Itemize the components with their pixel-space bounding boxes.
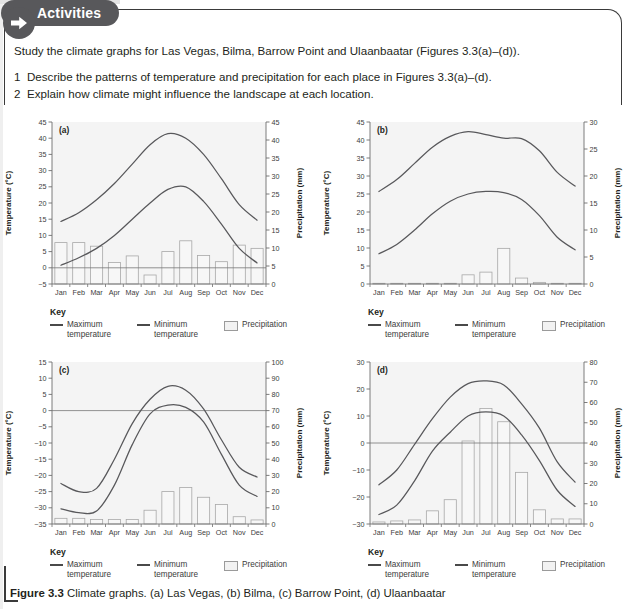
x-tick-label: Feb [73,288,85,297]
x-tick-label: May [443,288,457,297]
y-tick-label-right: 20 [272,208,280,217]
key-label-minimum: Minimum temperature [154,320,214,339]
y-tick-label-left: 10 [357,412,365,421]
y-tick-label-right: 30 [272,172,280,181]
key-item-precipitation: Precipitation [224,320,287,331]
key-label-maximum: Maximum temperature [67,320,127,339]
precipitation-bar [462,441,474,524]
key-chart-a: Key Maximum temperature Minimum temperat… [50,307,297,339]
key-item-maximum-temperature: Maximum temperature [50,320,127,339]
y-tick-label-right: 35 [272,154,280,163]
x-tick-label: Aug [179,288,192,297]
panel-label: (d) [377,365,388,375]
precipitation-bar [516,472,528,524]
precipitation-bar [498,422,510,524]
line-swatch-icon [455,324,468,326]
y-tick-label-right: 70 [590,378,598,387]
key-item-precipitation: Precipitation [224,560,287,571]
line-swatch-icon [137,564,150,566]
x-tick-label: Feb [391,288,403,297]
y-tick-label-right: 25 [590,145,598,154]
x-tick-label: Jan [55,288,67,297]
x-tick-label: Aug [497,288,510,297]
y-tick-label-left: 0 [361,280,365,289]
y-tick-label-right: 15 [272,226,280,235]
y-tick-label-left: 15 [357,226,365,235]
key-label-precipitation: Precipitation [242,560,287,570]
chart-canvas: −5051015202530354045051015202530354045Ja… [0,112,310,308]
arrow-right-icon [3,7,35,39]
y-tick-label-right: 40 [272,136,280,145]
y-tick-label-right: 100 [272,358,284,367]
precipitation-bar [91,246,103,284]
y-tick-label-right: 10 [590,499,598,508]
y-tick-label-left: 15 [39,358,47,367]
x-tick-label: Jun [144,528,156,537]
climate-chart-b: 051015202530354045051015202530JanFebMarA… [318,112,628,308]
y-tick-label-right: 30 [590,118,598,127]
y-tick-label-left: −15 [34,455,46,464]
precipitation-bar [91,519,103,524]
key-item-minimum-temperature: Minimum temperature [455,320,532,339]
y-tick-label-left: 30 [39,166,47,175]
precipitation-bar [251,248,263,284]
precipitation-bar [516,278,528,284]
x-tick-label: Jan [373,528,385,537]
y-tick-label-left: 0 [43,263,47,272]
y-tick-label-left: 30 [357,172,365,181]
y-tick-label-left: −5 [38,422,46,431]
key-chart-b: Key Maximum temperature Minimum temperat… [368,307,615,339]
y-tick-label-left: −20 [352,493,364,502]
bar-swatch-icon [224,561,238,571]
y-axis-title-right: Precipitation (mm) [613,168,622,239]
y-tick-label-left: 0 [361,439,365,448]
key-chart-c: Key Maximum temperature Minimum temperat… [50,547,297,579]
x-tick-label: Jun [144,288,156,297]
x-tick-label: Dec [569,528,582,537]
y-tick-label-left: 10 [39,231,47,240]
line-swatch-icon [137,324,150,326]
panel-label: (b) [377,125,388,135]
chart-canvas: 051015202530354045051015202530JanFebMarA… [318,112,628,308]
x-tick-label: Dec [251,528,264,537]
x-tick-label: Feb [73,528,85,537]
line-swatch-icon [455,564,468,566]
y-tick-label-right: 0 [272,280,276,289]
y-tick-label-left: −30 [352,520,364,529]
key-item-minimum-temperature: Minimum temperature [137,560,214,579]
x-tick-label: Jul [481,528,491,537]
precipitation-bar [444,500,456,524]
y-tick-label-left: 0 [43,406,47,415]
question-2-number: 2 [14,87,20,100]
y-tick-label-left: 40 [357,136,365,145]
key-item-maximum-temperature: Maximum temperature [368,320,445,339]
climate-chart-d: −30−20−10010203001020304050607080JanFebM… [318,352,628,548]
x-tick-label: Sep [515,288,528,297]
y-tick-label-left: 5 [43,390,47,399]
precipitation-bar [198,497,210,524]
x-tick-label: Oct [534,528,545,537]
y-tick-label-right: 40 [590,439,598,448]
climate-chart-c: −35−30−25−20−15−10−505101501020304050607… [0,352,310,548]
precipitation-bar [569,519,581,524]
y-tick-label-right: 0 [590,520,594,529]
y-tick-label-right: 80 [272,390,280,399]
key-label-maximum: Maximum temperature [385,560,445,579]
key-label-minimum: Minimum temperature [154,560,214,579]
y-axis-title-right: Precipitation (mm) [613,408,622,479]
key-label-minimum: Minimum temperature [472,560,532,579]
key-title: Key [50,547,297,557]
y-tick-label-right: 10 [590,226,598,235]
key-label-minimum: Minimum temperature [472,320,532,339]
x-tick-label: Oct [216,288,227,297]
precipitation-bar [551,519,563,524]
precipitation-bar [391,521,403,524]
panel-label: (c) [59,365,69,375]
caption-bracket-vertical [4,566,6,602]
precipitation-bar [215,262,227,284]
plot-area [52,362,266,524]
precipitation-bar [198,256,210,284]
precipitation-bar [480,409,492,524]
question-1-text: Describe the patterns of temperature and… [27,70,492,83]
precipitation-bar [108,519,120,524]
